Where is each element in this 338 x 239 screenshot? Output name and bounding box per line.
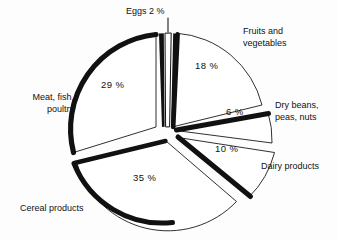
pie-value-meat-fish-poultry: 29 % (101, 79, 124, 90)
pie-label-meat-line2: poultry (2, 104, 74, 116)
pie-label-fruits-line2: vegetables (243, 38, 287, 50)
pie-label-cereal-products: Cereal products (20, 203, 84, 215)
pie-value-dry-beans: 6 % (226, 106, 244, 117)
pie-label-dry-beans-line2: peas, nuts (275, 112, 319, 124)
pie-label-dairy-products: Dairy products (261, 161, 319, 173)
pie-label-cereal-line1: Cereal products (20, 203, 84, 215)
pie-label-dry-beans: Dry beans, peas, nuts (275, 100, 319, 123)
pie-label-dry-beans-line1: Dry beans, (275, 100, 319, 112)
pie-slice-meat-fish-poultry[interactable] (71, 35, 156, 153)
pie-slice-eggs-left-edge (159, 33, 165, 127)
pie-slice-eggs-face (165, 33, 171, 127)
pie-label-fruits-line1: Fruits and (243, 26, 287, 38)
pie-label-meat-fish-poultry: Meat, fish, poultry (2, 92, 74, 115)
pie-label-eggs: Eggs 2 % (126, 6, 165, 18)
pie-chart: 29 % 18 % 6 % 10 % 35 % Eggs 2 % Fruits … (0, 0, 338, 239)
pie-label-fruits-vegetables: Fruits and vegetables (243, 26, 287, 49)
pie-label-eggs-line1: Eggs 2 % (126, 6, 165, 18)
pie-value-cereal-products: 35 % (133, 172, 156, 183)
pie-label-meat-line1: Meat, fish, (2, 92, 74, 104)
pie-value-dairy-products: 10 % (215, 143, 238, 154)
pie-label-dairy-line1: Dairy products (261, 161, 319, 173)
pie-value-fruits-vegetables: 18 % (195, 60, 218, 71)
